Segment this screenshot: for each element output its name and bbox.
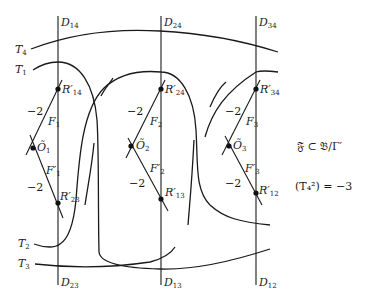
label-r34: R′34: [260, 84, 280, 99]
label-t2: T2: [18, 238, 30, 253]
label-r23: R′23: [60, 191, 80, 206]
point-r14: [55, 86, 60, 91]
curve-segment-2: [85, 143, 94, 205]
label-r14: R′14: [62, 84, 82, 99]
label-f2: F2: [150, 116, 162, 131]
point-o1: [30, 145, 35, 150]
label-r12: R′12: [259, 185, 279, 200]
curve-segment-4: [210, 82, 226, 107]
label-f3: F3: [246, 116, 258, 131]
point-r24: [158, 86, 163, 91]
label-f1: F1: [48, 116, 60, 131]
label-t1: T1: [15, 64, 27, 79]
label-self-int-f2-prime: −2: [129, 178, 145, 189]
label-o1: Õ1: [37, 142, 51, 157]
label-d23: D23: [61, 277, 79, 292]
curve-t4: [31, 30, 278, 52]
label-self-int-f3: −2: [225, 106, 241, 117]
label-t4: T4: [15, 44, 27, 59]
point-r12: [253, 190, 258, 195]
curve-t3: [35, 247, 175, 267]
label-self-int-f3-prime: −2: [225, 178, 241, 189]
point-r34: [253, 86, 258, 91]
curve-segment-1: [101, 78, 113, 96]
label-self-int-f1: −2: [27, 106, 43, 117]
label-o2: Õ2: [136, 140, 150, 155]
label-d14: D14: [61, 17, 79, 32]
label-t3: T3: [18, 258, 30, 273]
formula-self-intersection: (T₄²) = −3: [295, 180, 352, 193]
label-self-int-f2: −2: [127, 106, 143, 117]
label-f1-prime: F′1: [46, 165, 61, 180]
point-o3: [226, 143, 231, 148]
curve-arch-right: [205, 71, 278, 137]
label-self-int-f1-prime: −2: [27, 182, 43, 193]
label-d12: D12: [259, 277, 277, 292]
formula-inclusion: 𝔉 ⊂ 𝔅/Γ′: [297, 140, 342, 153]
label-o3: Õ3: [233, 140, 247, 155]
label-f3-prime: F′3: [245, 163, 260, 178]
label-d34: D34: [259, 17, 277, 32]
label-d13: D13: [164, 277, 182, 292]
curve-segment-3: [188, 140, 194, 225]
label-f2-prime: F′2: [150, 163, 165, 178]
point-o2: [128, 143, 133, 148]
label-r24: R′24: [165, 84, 185, 99]
label-d24: D24: [164, 17, 182, 32]
point-r13: [158, 196, 163, 201]
label-r13: R′13: [165, 187, 185, 202]
